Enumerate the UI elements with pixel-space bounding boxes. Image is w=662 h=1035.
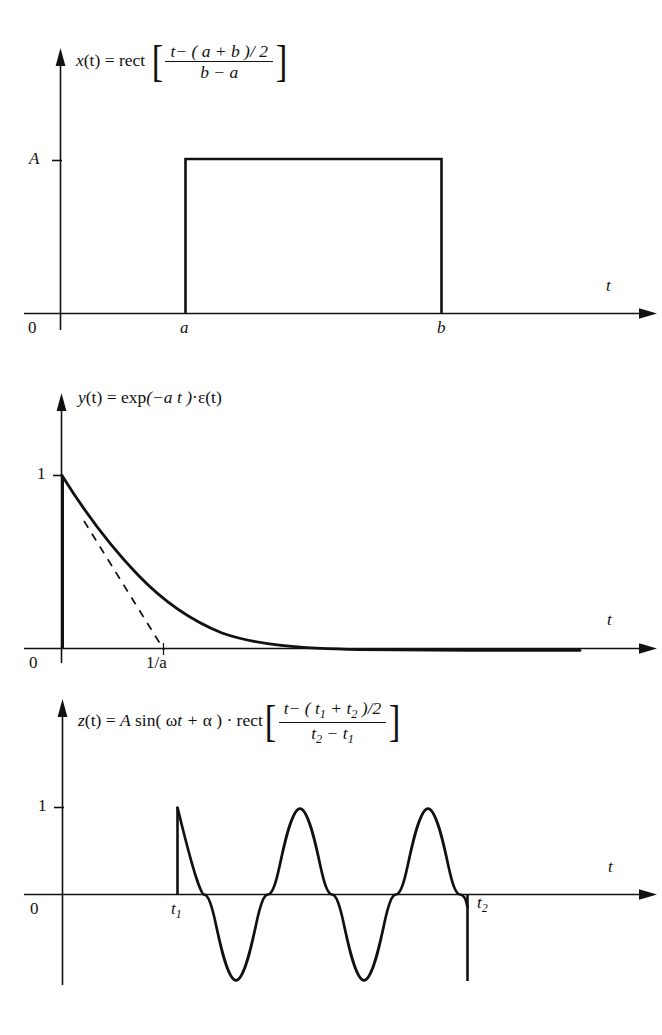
origin-label-figure3: 0 (30, 899, 39, 919)
origin-label-figure1: 0 (28, 318, 37, 338)
exponential-curve (62, 476, 580, 651)
eq2-exp-argument: (−a t ) (146, 387, 192, 407)
tick-t1-sub: 1 (176, 907, 182, 921)
tick-label-one-figure2: 1 (37, 464, 46, 484)
eq3-dot: · (226, 710, 232, 730)
eq3-lhs-arg: (t) (85, 710, 102, 730)
eq3-t-plus: t + (177, 710, 202, 730)
eq2-exp-operator: exp (121, 387, 146, 407)
figure-gated-sinusoid: z(t) = A sin( ωt + α ) · rect[t− ( t1 + … (0, 685, 662, 1035)
x-axis-figure3 (24, 889, 657, 899)
rect-pulse-trace (186, 159, 442, 313)
tick-label-t1: t1 (171, 899, 182, 922)
eq1-denominator: b − a (165, 62, 273, 81)
eq3-equals: = (106, 710, 116, 730)
eq3-bracket-close: ] (389, 708, 401, 736)
figure-decaying-exponential: y(t) = exp(−a t )·ε(t) t 0 1 1/a (0, 345, 662, 685)
eq1-fraction: t− ( a + b )/ 2b − a (165, 42, 273, 82)
eq3-numerator: t− ( t1 + t2 )/2 (279, 699, 387, 723)
figure-rect-pulse: x(t) = rect [t− ( a + b )/ 2b − a] t 0 A… (0, 0, 662, 345)
eq3-rect-operator: rect (237, 710, 263, 730)
eq3-sin-arg-open: ( (155, 710, 165, 730)
eq3-denominator: t2 − t1 (279, 723, 387, 746)
eq1-bracket-open: [ (151, 48, 163, 76)
equation-figure3: z(t) = A sin( ωt + α ) · rect[t− ( t1 + … (78, 699, 402, 745)
tick-label-t2: t2 (477, 893, 488, 916)
x-axis-label-figure2: t (607, 610, 612, 630)
eq2-equals: = (107, 387, 117, 407)
tick-label-inv-a: 1/a (146, 653, 167, 673)
tick-t2-sub: 2 (482, 901, 488, 915)
eq2-lhs-arg: (t) (86, 387, 103, 407)
eq3-omega: ω (166, 710, 178, 730)
x-axis-label-figure3: t (608, 857, 613, 877)
eq3-num-plus: + t (326, 698, 351, 718)
eq3-sin-operator: sin (135, 710, 155, 730)
y-axis-figure3 (58, 699, 68, 985)
eq3-bracket-open: [ (264, 708, 276, 736)
eq1-lhs-arg: (t) (84, 50, 101, 70)
eq3-lhs: z (78, 710, 85, 730)
eq3-fraction: t− ( t1 + t2 )/2t2 − t1 (279, 699, 387, 745)
tick-label-A: A (29, 149, 39, 169)
x-axis-label-figure1: t (606, 276, 611, 296)
eq3-num-minus: − ( t (289, 698, 320, 718)
tangent-dashed-line (84, 521, 164, 650)
eq1-equals: = (105, 50, 115, 70)
tick-label-a: a (180, 318, 189, 338)
eq3-num-tail: )/2 (357, 698, 381, 718)
eq1-lhs: x (76, 50, 84, 70)
eq3-amplitude: A (120, 710, 131, 730)
x-axis-figure1 (24, 308, 657, 318)
eq3-alpha: α (203, 710, 212, 730)
eq3-sin-arg-close: ) (212, 710, 222, 730)
eq2-epsilon-argument: (t) (205, 387, 222, 407)
y-axis-figure1 (56, 48, 66, 330)
equation-figure2: y(t) = exp(−a t )·ε(t) (78, 388, 222, 406)
tick-label-b: b (437, 318, 446, 338)
equation-figure1: x(t) = rect [t− ( a + b )/ 2b − a] (76, 42, 289, 82)
eq1-numerator: t− ( a + b )/ 2 (165, 42, 273, 62)
eq3-den-sub1: 1 (348, 731, 354, 745)
origin-label-figure2: 0 (29, 653, 38, 673)
eq3-den-minus: − t (322, 723, 347, 743)
eq1-rect-operator: rect (119, 50, 145, 70)
eq1-num-rest: − ( a + b )/ 2 (175, 41, 268, 61)
tick-label-one-figure3: 1 (38, 796, 47, 816)
eq1-bracket-close: ] (276, 48, 288, 76)
eq2-lhs: y (78, 387, 86, 407)
